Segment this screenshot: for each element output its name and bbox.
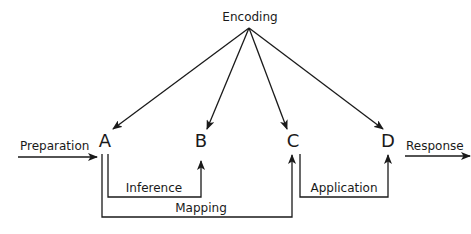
response-label: Response: [406, 139, 464, 153]
encoding-arrows: [113, 28, 383, 129]
inference-label: Inference: [126, 181, 182, 195]
mapping-label: Mapping: [175, 201, 227, 215]
node-a: A: [99, 130, 112, 151]
encoding-label: Encoding: [222, 10, 277, 24]
arrow-encoding-to-c: [249, 28, 287, 129]
application-label: Application: [310, 181, 377, 195]
preparation-label: Preparation: [20, 139, 89, 153]
node-d: D: [381, 130, 395, 151]
node-c: C: [287, 130, 300, 151]
process-diagram: Encoding A B C D Preparation Response In…: [0, 0, 471, 234]
node-b: B: [195, 130, 207, 151]
arrow-encoding-to-d: [249, 28, 383, 129]
